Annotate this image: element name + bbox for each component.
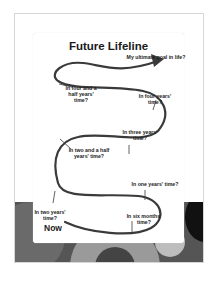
decorative-circle	[185, 202, 203, 242]
tick-mark	[53, 191, 55, 203]
milestone-label: In four and a half years' time?	[61, 85, 101, 103]
lifeline-worksheet: Future Lifeline My ultimate goal in life…	[33, 33, 184, 243]
milestone-label: In two and a half years' time?	[63, 147, 115, 159]
milestone-label: In four years' time?	[138, 93, 172, 105]
milestone-label: In three years' time?	[121, 129, 159, 141]
milestone-label: In two years' time?	[33, 209, 67, 221]
milestone-label: In one years' time?	[131, 181, 179, 187]
milestone-label: In six months' time?	[125, 213, 163, 225]
image-frame: Future Lifeline My ultimate goal in life…	[14, 13, 204, 263]
milestone-label: My ultimate goal in life?	[121, 54, 191, 60]
start-label: Now	[44, 223, 62, 233]
